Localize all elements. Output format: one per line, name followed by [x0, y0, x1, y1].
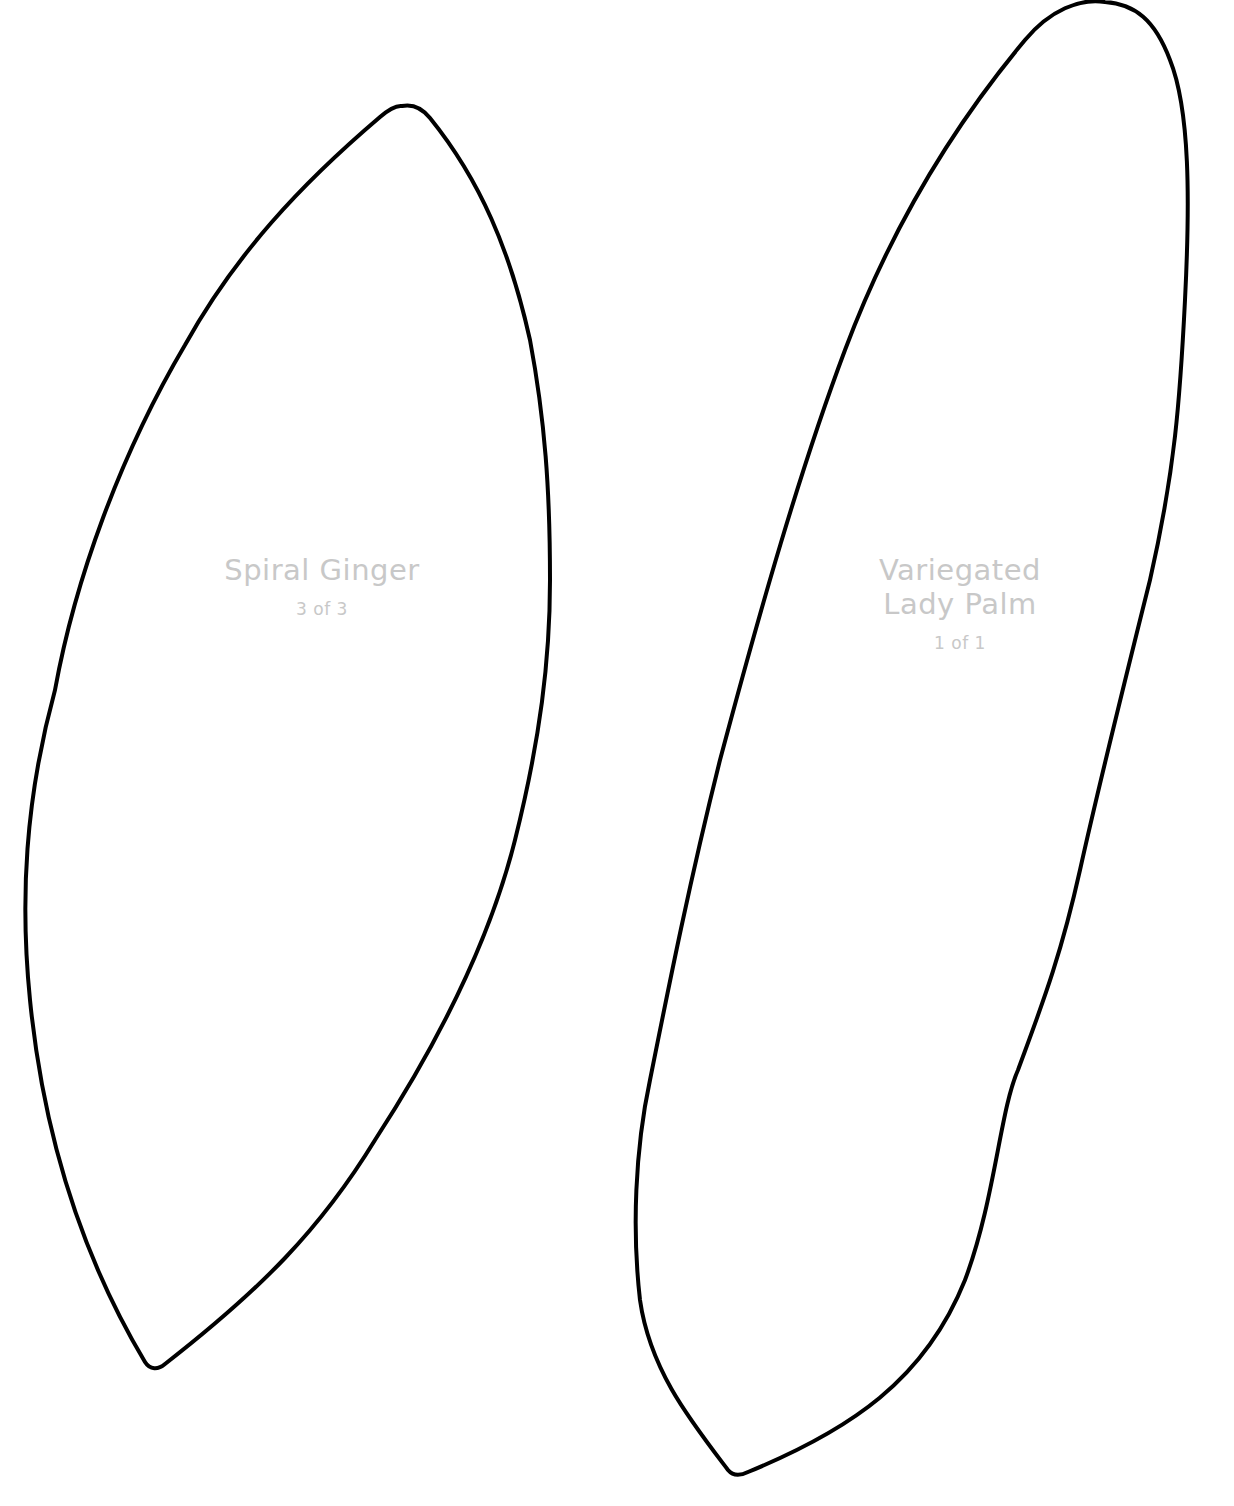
lady-palm-title-line2: Lady Palm [810, 587, 1110, 621]
spiral-ginger-leaf-outline [25, 106, 550, 1369]
spiral-ginger-title: Spiral Ginger [172, 553, 472, 587]
lady-palm-count: 1 of 1 [810, 633, 1110, 653]
spiral-ginger-count: 3 of 3 [172, 599, 472, 619]
lady-palm-title-line1: Variegated [810, 553, 1110, 587]
spiral-ginger-label: Spiral Ginger 3 of 3 [172, 553, 472, 619]
lady-palm-label: Variegated Lady Palm 1 of 1 [810, 553, 1110, 653]
template-canvas [0, 0, 1234, 1506]
variegated-lady-palm-leaf-outline [636, 1, 1188, 1475]
